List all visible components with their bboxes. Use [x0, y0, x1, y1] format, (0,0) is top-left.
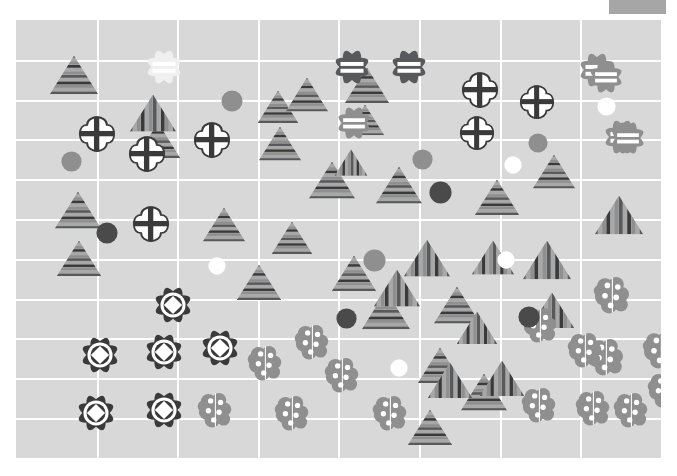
marker-flower-bars [391, 49, 427, 85]
marker-tri-h [271, 221, 313, 255]
marker-circle-white [208, 257, 226, 275]
marker-cross-clover [459, 115, 495, 151]
marker-flower-bars [589, 60, 623, 94]
marker-tri-h [285, 77, 329, 112]
marker-tri-v [373, 269, 421, 307]
marker-circle-solid [363, 249, 386, 272]
marker-circle-solid [96, 222, 118, 244]
marker-flower-diamond [81, 336, 119, 374]
marker-cluster-dots [521, 386, 559, 424]
marker-cluster-dots [575, 389, 613, 427]
marker-flower-bars [611, 121, 645, 155]
marker-cluster-dots [567, 331, 605, 369]
marker-cluster-dots [247, 344, 285, 382]
marker-tri-h [202, 207, 246, 242]
marker-circle-white [390, 359, 408, 377]
marker-cross-clover [128, 135, 166, 173]
marker-circle-solid [528, 133, 548, 153]
marker-flower-diamond [154, 286, 192, 324]
plot-area [16, 20, 661, 458]
marker-tri-v [427, 362, 473, 399]
marker-flower-diamond [201, 329, 239, 367]
marker-cross-clover [193, 121, 231, 159]
marker-cluster-dots [372, 394, 410, 432]
marker-tri-h [258, 126, 302, 161]
marker-tri-h [532, 154, 576, 189]
marker-cross-clover [519, 84, 555, 120]
marker-tri-h [49, 55, 99, 95]
legend-swatch [609, 0, 666, 14]
marker-cluster-dots [647, 371, 661, 409]
marker-circle-white [597, 97, 616, 116]
figure-root [0, 0, 677, 476]
marker-tri-v [456, 311, 498, 345]
marker-tri-h [474, 179, 520, 216]
marker-circle-white [497, 251, 515, 269]
marker-flower-bars [337, 106, 371, 140]
marker-cross-clover [461, 71, 499, 109]
marker-flower-bars [146, 49, 182, 85]
marker-circle-white [504, 156, 522, 174]
gridline-horizontal [16, 100, 661, 102]
marker-tri-v [522, 240, 572, 280]
marker-cluster-dots [642, 330, 661, 370]
marker-tri-h [375, 166, 423, 204]
gridline-vertical [258, 20, 260, 458]
marker-circle-solid [336, 308, 357, 329]
marker-tri-v [334, 149, 368, 176]
marker-cluster-dots [593, 275, 633, 315]
marker-circle-solid [412, 149, 433, 170]
marker-cluster-dots [324, 356, 362, 394]
marker-flower-diamond [145, 333, 183, 371]
marker-tri-h [54, 191, 102, 229]
marker-flower-diamond [145, 391, 183, 429]
marker-flower-diamond [77, 394, 115, 432]
marker-circle-solid [518, 306, 540, 328]
marker-circle-solid [61, 151, 82, 172]
marker-tri-v [129, 94, 177, 132]
marker-tri-v [594, 195, 644, 235]
marker-cluster-dots [197, 391, 235, 429]
marker-tri-h [236, 264, 282, 301]
marker-tri-v [479, 360, 525, 397]
marker-flower-bars [334, 49, 370, 85]
gridline-horizontal [16, 219, 661, 221]
marker-cluster-dots [613, 391, 651, 429]
marker-tri-h [56, 240, 102, 277]
marker-circle-solid [429, 181, 452, 204]
marker-cross-clover [132, 205, 170, 243]
marker-cluster-dots [274, 394, 312, 432]
marker-circle-solid [221, 90, 243, 112]
marker-cross-clover [78, 115, 116, 153]
marker-tri-h [407, 409, 453, 446]
